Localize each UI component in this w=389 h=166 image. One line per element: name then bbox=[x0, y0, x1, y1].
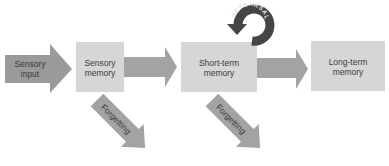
forgetting-arrow-2: Forgetting bbox=[201, 89, 272, 160]
arrow-sensory-to-short-term bbox=[124, 47, 177, 87]
sensory-memory-label-1: Sensory bbox=[84, 58, 116, 68]
sensory-memory-label-2: memory bbox=[85, 68, 116, 78]
rehearsal-loop-arrow: REHEARSAL bbox=[227, 1, 270, 41]
short-term-memory-box: Short-term memory bbox=[181, 42, 257, 92]
short-term-memory-label-2: memory bbox=[204, 68, 235, 78]
long-term-memory-label-2: memory bbox=[333, 67, 364, 77]
memory-diagram: Sensory input Sensory memory Short-term … bbox=[0, 0, 389, 166]
forgetting-arrow-1: Forgetting bbox=[86, 89, 157, 160]
arrow-short-term-to-long-term bbox=[257, 49, 308, 89]
long-term-memory-label-1: Long-term bbox=[329, 57, 368, 67]
long-term-memory-box: Long-term memory bbox=[311, 41, 385, 91]
sensory-input-label-1: Sensory bbox=[14, 59, 46, 69]
short-term-memory-label-1: Short-term bbox=[199, 58, 239, 68]
sensory-memory-box: Sensory memory bbox=[76, 42, 124, 92]
sensory-input-arrow: Sensory input bbox=[5, 44, 72, 93]
sensory-input-label-2: input bbox=[21, 69, 40, 79]
